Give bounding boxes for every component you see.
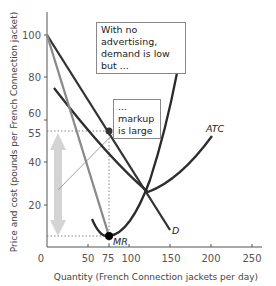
mr-label: MR — [113, 236, 128, 247]
mc-curve — [92, 73, 177, 236]
y-tick-100: 100 — [22, 30, 41, 41]
x-tick-100: 100 — [121, 253, 140, 264]
x-tick-75: 75 — [102, 253, 115, 264]
note-markup-large: ... markup is large — [113, 99, 161, 139]
note-no-advertising: With no advertising, demand is low but .… — [96, 22, 186, 74]
d-label: D — [172, 225, 179, 236]
y-tick-20: 20 — [28, 200, 41, 211]
y-axis-title: Price and cost (pounds per French Connec… — [9, 12, 19, 252]
x-tick-250: 250 — [242, 253, 261, 264]
x-tick-0: 0 — [38, 253, 44, 264]
mr-mc-point — [105, 232, 113, 240]
x-tick-150: 150 — [161, 253, 180, 264]
x-tick-50: 50 — [82, 253, 95, 264]
y-tick-55: 55 — [28, 128, 41, 139]
x-axis-title: Quantity (French Connection jackets per … — [54, 272, 258, 282]
atc-label: ATC — [205, 123, 225, 134]
x-tick-200: 200 — [201, 253, 220, 264]
y-tick-40: 40 — [28, 157, 41, 168]
y-tick-60: 60 — [28, 108, 41, 119]
price-point — [106, 128, 113, 135]
y-tick-80: 80 — [28, 72, 41, 83]
